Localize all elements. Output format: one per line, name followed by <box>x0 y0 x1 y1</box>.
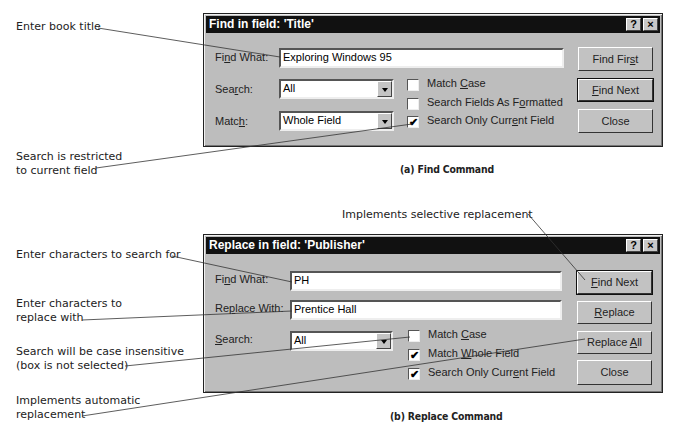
annotation-automatic-replacement: Implements automatic replacement <box>16 394 140 422</box>
annotation-search-for: Enter characters to search for <box>16 248 181 262</box>
match-combo-value: Whole Field <box>283 114 341 126</box>
search-combo-value: All <box>294 334 306 346</box>
match-case-label: Match Case <box>427 77 486 89</box>
replace-with-label: Replace With: <box>215 302 283 314</box>
caption-find-command: (a) Find Command <box>400 163 494 176</box>
replace-dialog: Replace in field: 'Publisher' ? × Find W… <box>203 234 663 393</box>
chevron-down-icon[interactable] <box>377 113 392 129</box>
match-label: Match: <box>215 115 248 127</box>
annotation-enter-book-title: Enter book title <box>16 20 101 34</box>
find-what-label: Find What: <box>215 273 268 285</box>
search-combo[interactable]: All <box>290 331 393 351</box>
search-only-current-field-checkbox[interactable]: ✔ <box>407 116 419 128</box>
replace-dialog-title: Replace in field: 'Publisher' <box>209 238 365 252</box>
find-what-input[interactable]: PH <box>290 271 562 291</box>
search-label: Search: <box>215 83 253 95</box>
search-combo[interactable]: All <box>279 79 394 99</box>
search-combo-value: All <box>283 82 295 94</box>
match-case-label: Match Case <box>428 328 487 340</box>
chevron-down-icon[interactable] <box>376 333 391 349</box>
replace-button[interactable]: Replace <box>577 301 652 324</box>
match-case-checkbox[interactable] <box>407 79 419 91</box>
match-combo[interactable]: Whole Field <box>279 111 394 131</box>
find-what-label: Find What: <box>215 51 268 63</box>
close-button[interactable]: Close <box>577 360 652 385</box>
replace-dialog-titlebar: Replace in field: 'Publisher' ? × <box>206 237 660 254</box>
annotation-replace-with: Enter characters to replace with <box>16 297 122 325</box>
find-first-button[interactable]: Find First <box>578 47 653 71</box>
annotation-selective-replacement: Implements selective replacement <box>342 208 533 222</box>
find-dialog: Find in field: 'Title' ? × Find What: Ex… <box>203 13 663 147</box>
search-only-current-field-label: Search Only Current Field <box>427 114 554 126</box>
find-what-input[interactable]: Exploring Windows 95 <box>279 48 564 68</box>
match-whole-field-checkbox[interactable]: ✔ <box>408 349 420 361</box>
match-case-checkbox[interactable] <box>408 330 420 342</box>
caption-replace-command: (b) Replace Command <box>390 410 503 423</box>
find-dialog-title: Find in field: 'Title' <box>209 17 314 31</box>
help-button[interactable]: ? <box>626 18 641 31</box>
close-window-button[interactable]: × <box>643 239 658 252</box>
annotation-search-restricted: Search is restricted to current field <box>16 150 122 178</box>
search-fields-formatted-label: Search Fields As Formatted <box>427 96 563 108</box>
find-next-button[interactable]: Find Next <box>578 79 653 101</box>
replace-all-button[interactable]: Replace All <box>577 331 652 354</box>
search-only-current-field-checkbox[interactable]: ✔ <box>408 368 420 380</box>
close-button[interactable]: Close <box>578 109 653 133</box>
replace-with-input[interactable]: Prentice Hall <box>290 300 562 320</box>
search-label: Search: <box>215 333 253 345</box>
chevron-down-icon[interactable] <box>377 81 392 97</box>
help-button[interactable]: ? <box>626 239 641 252</box>
match-whole-field-label: Match Whole Field <box>428 347 519 359</box>
find-dialog-titlebar: Find in field: 'Title' ? × <box>206 16 660 33</box>
find-next-button[interactable]: Find Next <box>577 271 652 294</box>
search-fields-formatted-checkbox[interactable] <box>407 98 419 110</box>
search-only-current-field-label: Search Only Current Field <box>428 366 555 378</box>
annotation-case-insensitive: Search will be case insensitive (box is … <box>16 345 184 373</box>
close-window-button[interactable]: × <box>643 18 658 31</box>
